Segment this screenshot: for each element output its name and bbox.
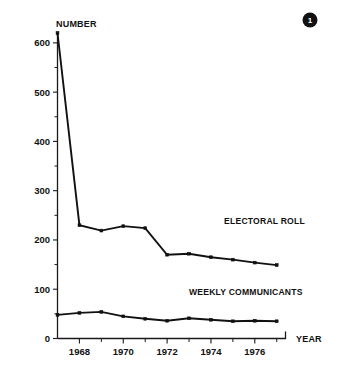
- data-point: [188, 317, 191, 320]
- data-point: [210, 318, 213, 321]
- series-label-2: WEEKLY COMMUNICANTS: [189, 287, 303, 297]
- x-tick-label: 1970: [113, 346, 134, 357]
- data-point: [56, 313, 59, 316]
- y-tick-label: 400: [34, 136, 50, 147]
- figure-number-badge: 1: [303, 13, 318, 28]
- data-point: [144, 317, 147, 320]
- x-axis-title: YEAR: [296, 334, 322, 344]
- data-point: [253, 261, 256, 264]
- data-point: [144, 227, 147, 230]
- badge-number: 1: [308, 16, 313, 25]
- y-tick-group: [53, 43, 58, 339]
- data-point: [231, 320, 234, 323]
- x-axis-line: [58, 332, 286, 339]
- data-point: [122, 315, 125, 318]
- series-line-1: [58, 33, 277, 265]
- data-point: [166, 253, 169, 256]
- data-point: [166, 319, 169, 322]
- y-tick-label: 0: [45, 333, 50, 344]
- data-point: [210, 256, 213, 259]
- data-point: [122, 225, 125, 228]
- data-point: [100, 229, 103, 232]
- data-point: [275, 320, 278, 323]
- data-point: [231, 258, 234, 261]
- x-tick-label-group: 19681970197219741976: [69, 346, 266, 357]
- y-tick-label: 100: [34, 284, 50, 295]
- y-tick-label: 300: [34, 185, 50, 196]
- series-label-1: ELECTORAL ROLL: [224, 216, 305, 226]
- y-tick-label: 200: [34, 234, 50, 245]
- y-tick-label: 500: [34, 87, 50, 98]
- y-tick-label: 600: [34, 37, 50, 48]
- marker-group: [56, 32, 278, 323]
- figure-container: 0100200300400500600 19681970197219741976…: [0, 0, 340, 377]
- x-tick-label: 1976: [244, 346, 265, 357]
- x-tick-group: [79, 339, 276, 344]
- y-axis-title: NUMBER: [56, 19, 97, 29]
- data-point: [188, 252, 191, 255]
- data-point: [100, 310, 103, 313]
- data-point: [78, 224, 81, 227]
- data-point: [78, 311, 81, 314]
- data-point: [56, 32, 59, 35]
- y-tick-label-group: 0100200300400500600: [34, 37, 50, 344]
- data-point: [275, 264, 278, 267]
- data-point: [253, 319, 256, 322]
- x-tick-label: 1968: [69, 346, 90, 357]
- x-tick-label: 1972: [157, 346, 178, 357]
- series-group: [58, 33, 277, 321]
- x-tick-label: 1974: [200, 346, 222, 357]
- line-chart: 0100200300400500600 19681970197219741976…: [0, 0, 340, 377]
